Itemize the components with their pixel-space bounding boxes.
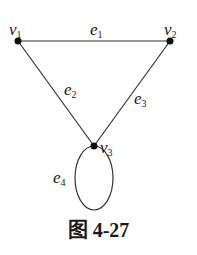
edge-e3 [94, 41, 170, 146]
figure-caption: 图 4-27 [0, 214, 197, 243]
vertex-label-v2: v2 [164, 20, 177, 40]
edge-label-e1: e1 [90, 20, 103, 40]
edge-label-e2: e2 [64, 80, 77, 100]
edge-e2 [18, 41, 94, 146]
vertex-v3 [91, 143, 98, 150]
vertex-label-v1: v1 [9, 20, 22, 40]
edge-label-e3: e3 [134, 89, 147, 109]
edge-label-e4: e4 [53, 168, 66, 188]
vertex-label-v3: v3 [100, 138, 113, 158]
